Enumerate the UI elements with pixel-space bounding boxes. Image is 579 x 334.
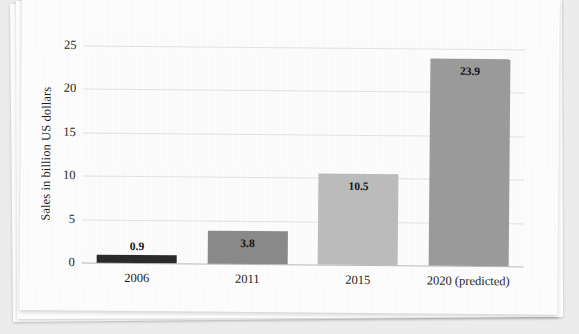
y-axis-tick-label: 20 bbox=[64, 81, 77, 96]
x-axis-tick-label: 2006 bbox=[124, 271, 149, 286]
bar-value-label: 3.8 bbox=[240, 237, 254, 249]
y-axis-tick-label: 15 bbox=[63, 125, 76, 140]
screenshot-stage: Sales in billion US dollars 05101520250.… bbox=[0, 0, 579, 334]
y-axis-tick-label: 10 bbox=[63, 168, 76, 183]
bar[interactable]: 3.82011 bbox=[208, 231, 288, 265]
x-axis-tick-label: 2020 (predicted) bbox=[427, 274, 510, 290]
bar-value-label: 23.9 bbox=[460, 64, 480, 76]
y-axis-tick-label: 0 bbox=[68, 255, 74, 270]
y-axis-title: Sales in billion US dollars bbox=[38, 54, 55, 254]
bar[interactable]: 10.52015 bbox=[318, 173, 398, 265]
x-axis-tick-label: 2015 bbox=[345, 273, 370, 288]
gridline-25: 25 bbox=[84, 46, 526, 51]
bar-value-label: 0.9 bbox=[130, 240, 144, 252]
bar-chart: Sales in billion US dollars 05101520250.… bbox=[19, 0, 560, 315]
chart-card: Sales in billion US dollars 05101520250.… bbox=[19, 0, 560, 315]
plot-area: 05101520250.920063.8201110.5201523.92020… bbox=[82, 33, 526, 267]
x-axis-tick-label: 2011 bbox=[235, 272, 260, 287]
y-axis-tick-label: 25 bbox=[64, 38, 77, 53]
bar[interactable]: 23.92020 (predicted) bbox=[429, 58, 510, 266]
y-axis-tick-label: 5 bbox=[69, 212, 75, 227]
bar[interactable]: 0.92006 bbox=[97, 255, 177, 263]
bar-value-label: 10.5 bbox=[348, 180, 368, 192]
